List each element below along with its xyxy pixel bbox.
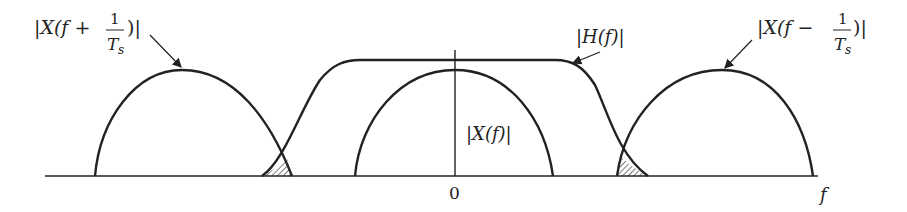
left-replica-arrow: [150, 35, 181, 67]
spectrum-diagram: |X(f + 1 T s )| |H(f)| |X(f − 1 T s )| |…: [0, 0, 907, 212]
svg-text:1: 1: [110, 10, 120, 28]
left-replica-curve: [95, 70, 292, 176]
baseband-curve: [355, 70, 553, 176]
svg-text:s: s: [845, 43, 851, 57]
filter-arrow: [573, 52, 600, 63]
right-replica-curve: [617, 70, 813, 176]
baseband-label: |X(f)|: [466, 123, 512, 145]
svg-text:)|: )|: [127, 16, 141, 39]
axis-label-f: f: [818, 184, 830, 205]
origin-label: 0: [449, 183, 460, 203]
left-replica-label: |X(f + 1 T s )|: [34, 10, 141, 57]
filter-label: |H(f)|: [576, 26, 625, 48]
svg-text:s: s: [118, 43, 124, 57]
svg-text:1: 1: [838, 10, 848, 28]
svg-text:|X(f +: |X(f +: [34, 16, 90, 39]
right-replica-label: |X(f − 1 T s )|: [757, 10, 867, 57]
svg-text:)|: )|: [853, 16, 867, 39]
svg-text:|X(f −: |X(f −: [757, 16, 813, 39]
right-replica-arrow: [725, 40, 752, 68]
